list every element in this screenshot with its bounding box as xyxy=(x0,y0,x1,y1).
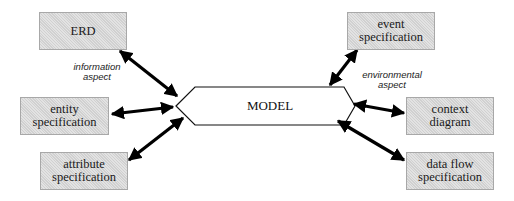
arrow-entity-model xyxy=(112,107,173,114)
context-diagram-line2: diagram xyxy=(430,116,471,129)
environmental-aspect-label: environmental aspect xyxy=(352,70,432,90)
model-diagram: MODEL ERD entity specification attribute… xyxy=(0,0,514,201)
arrow-context-model xyxy=(354,104,404,113)
data-flow-specification-line2: specification xyxy=(418,171,482,184)
context-diagram-box: context diagram xyxy=(406,97,494,135)
information-aspect-label: information aspect xyxy=(62,62,132,82)
entity-specification-box: entity specification xyxy=(20,97,109,135)
arrow-dataflow-model xyxy=(338,121,404,160)
arrow-attribute-model xyxy=(129,118,183,160)
event-specification-line2: specification xyxy=(359,31,423,44)
erd-box: ERD xyxy=(39,12,127,50)
erd-box-text: ERD xyxy=(71,25,96,38)
attribute-specification-line2: specification xyxy=(52,171,116,184)
data-flow-specification-box: data flow specification xyxy=(406,152,494,190)
entity-specification-line2: specification xyxy=(33,116,97,129)
environmental-aspect-line2: aspect xyxy=(352,80,432,90)
attribute-specification-box: attribute specification xyxy=(40,152,128,190)
information-aspect-line2: aspect xyxy=(62,72,132,82)
model-label: MODEL xyxy=(200,98,340,114)
event-specification-box: event specification xyxy=(347,12,435,50)
